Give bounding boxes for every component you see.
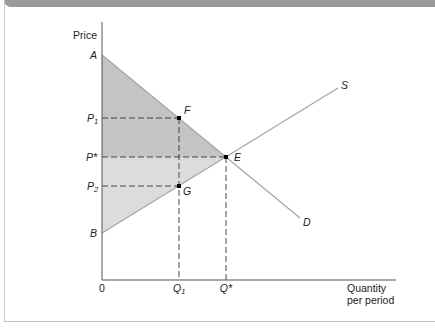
point-e-marker: [224, 155, 228, 159]
origin-label: 0: [99, 282, 105, 294]
label-b: B: [90, 227, 97, 239]
label-pstar: P*: [86, 151, 98, 163]
point-g-marker: [177, 184, 181, 188]
y-axis-label: Price: [73, 29, 97, 41]
x-axis-label-line2: per period: [347, 294, 394, 306]
label-demand: D: [303, 216, 311, 228]
label-f: F: [184, 104, 191, 116]
point-f-marker: [177, 116, 181, 120]
label-q1: Q1: [173, 282, 185, 296]
label-supply: S: [341, 79, 348, 91]
label-e: E: [234, 151, 242, 163]
x-axis-label-line1: Quantity: [347, 282, 387, 294]
supply-demand-diagram: Price A P1 P* P2 B 0 Q1 Q* Quantity per …: [0, 0, 435, 329]
label-p2: P2: [87, 180, 99, 194]
label-a: A: [89, 49, 97, 61]
label-qstar: Q*: [220, 282, 233, 294]
label-g: G: [183, 185, 191, 197]
label-p1: P1: [87, 112, 98, 126]
